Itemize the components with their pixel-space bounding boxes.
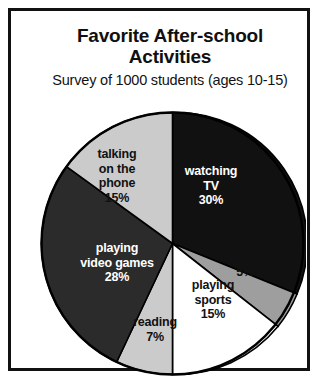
chart-title-line-2: Activities <box>22 46 318 67</box>
figure-border: Favorite After-school Activities Survey … <box>8 8 310 371</box>
pie-chart-figure: Favorite After-school Activities Survey … <box>0 0 326 388</box>
chart-title-line-1: Favorite After-school <box>22 25 318 46</box>
pie-svg <box>39 110 306 377</box>
title-block: Favorite After-school Activities Survey … <box>22 25 318 89</box>
page-title: Favorite After-school Activities <box>22 25 318 67</box>
pie-chart: watching TV 30% surfing the Internet 5% … <box>39 110 306 377</box>
chart-subtitle: Survey of 1000 students (ages 10-15) <box>22 72 318 89</box>
